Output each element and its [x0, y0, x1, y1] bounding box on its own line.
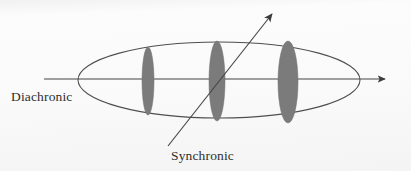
lens-left — [142, 47, 154, 115]
lens-middle — [209, 41, 225, 121]
synchronic-label: Synchronic — [171, 149, 234, 163]
synchronic-axis-line — [168, 14, 272, 146]
diagram-svg — [0, 0, 411, 171]
diachronic-label: Diachronic — [11, 90, 72, 104]
lens-right — [278, 41, 298, 123]
diagram-canvas: Diachronic Synchronic — [0, 0, 411, 171]
